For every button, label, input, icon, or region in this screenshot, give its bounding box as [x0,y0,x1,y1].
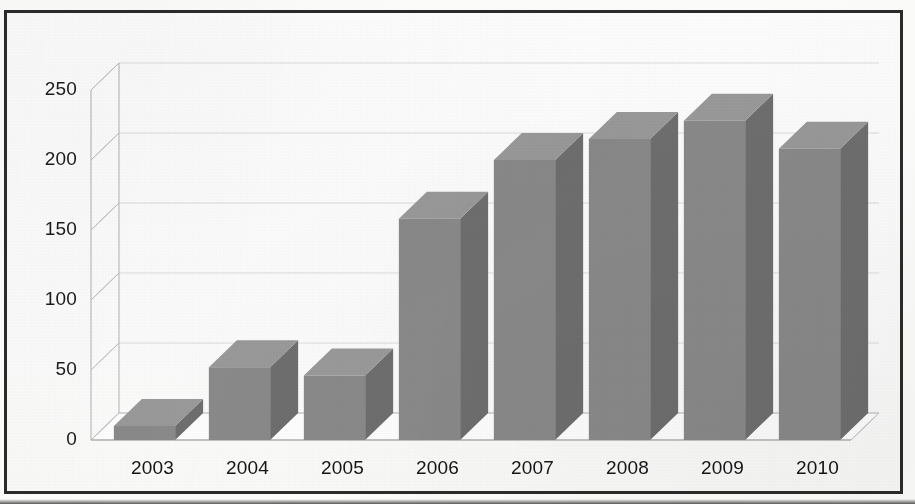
bar-side-face [840,122,868,440]
bar-front-face [779,149,840,440]
y-axis-depth-tick [91,133,119,160]
bar-2007 [494,133,583,440]
bar-front-face [589,139,650,440]
y-tick-label: 0 [19,429,77,448]
bar-2008 [589,112,678,440]
y-axis-depth-tick [91,203,119,230]
x-tick-label-2010: 2010 [772,458,864,478]
x-tick-label-2004: 2004 [202,458,294,478]
bar-2006 [399,192,488,440]
x-tick-label-2007: 2007 [487,458,579,478]
bar-front-face [399,219,460,440]
bar-2009 [684,94,773,440]
x-tick-label-2006: 2006 [392,458,484,478]
bar-side-face [460,192,488,440]
bar-front-face [494,160,555,440]
figure-page: 050100150200250 200320042005200620072008… [0,0,915,504]
y-tick-label: 50 [19,359,77,378]
bar-front-face [114,426,175,440]
x-tick-label-2005: 2005 [297,458,389,478]
bar-2010 [779,122,868,440]
y-tick-label: 200 [19,149,77,168]
bar-side-face [745,94,773,440]
bar-front-face [304,376,365,440]
y-tick-label: 150 [19,219,77,238]
y-axis-depth-tick [91,273,119,300]
x-tick-label-2008: 2008 [582,458,674,478]
bar-front-face [209,367,270,440]
figure-frame: 050100150200250 200320042005200620072008… [4,10,903,494]
bar-side-face [555,133,583,440]
x-tick-label-2003: 2003 [107,458,199,478]
y-axis-depth-tick [91,343,119,370]
bar-chart-canvas [7,13,906,497]
chart-plot-area: 050100150200250 200320042005200620072008… [7,13,906,497]
bar-side-face [650,112,678,440]
y-tick-label: 100 [19,289,77,308]
page-bottom-edge [0,499,915,504]
y-tick-label: 250 [19,79,77,98]
y-axis-depth-tick [91,63,119,90]
bar-front-face [684,121,745,440]
bar-2004 [209,340,298,440]
x-tick-label-2009: 2009 [677,458,769,478]
